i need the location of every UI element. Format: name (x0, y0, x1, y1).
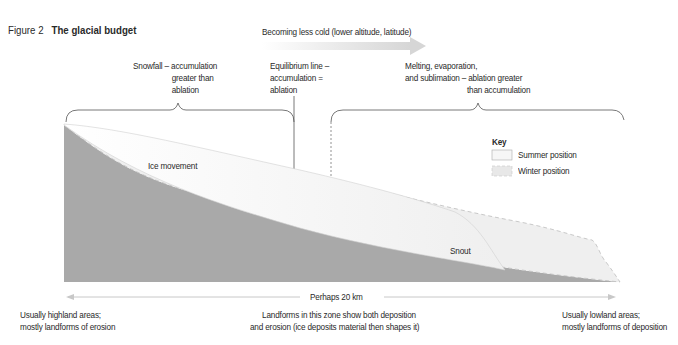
key-label-winter: Winter position (518, 165, 569, 177)
key-label-summer: Summer position (518, 149, 577, 161)
snout-label: Snout (450, 245, 470, 257)
note-lowland: Usually lowland areas; mostly landforms … (562, 309, 667, 333)
key-swatch-summer (492, 150, 512, 160)
accumulation-zone-text: Snowfall – accumulation greater than abl… (133, 60, 217, 96)
accumulation-brace (66, 103, 294, 122)
key-title: Key (492, 136, 506, 148)
gradient-label: Becoming less cold (lower altitude, lati… (262, 26, 411, 38)
cold-gradient-arrow (262, 37, 426, 55)
note-highland: Usually highland areas; mostly landforms… (20, 309, 115, 333)
note-mixed-zone: Landforms in this zone show both deposit… (250, 309, 419, 333)
ice-movement-label: Ice movement (148, 160, 197, 172)
distance-label: Perhaps 20 km (310, 291, 363, 303)
key-swatch-winter (492, 166, 512, 176)
ablation-brace (331, 103, 624, 122)
ablation-zone-text: Melting, evaporation, and sublimation – … (405, 60, 530, 96)
equilibrium-line-text: Equilibrium line – accumulation = ablati… (270, 60, 329, 96)
